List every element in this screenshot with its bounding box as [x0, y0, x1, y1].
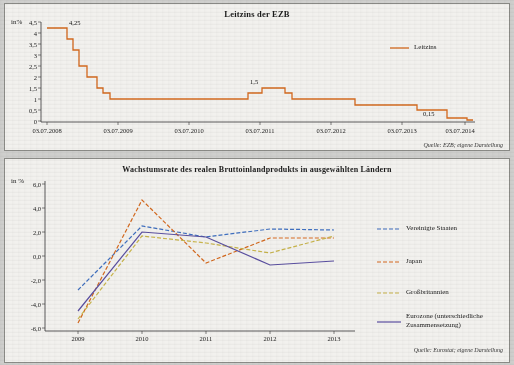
- svg-text:03.07.2013: 03.07.2013: [387, 127, 416, 134]
- svg-text:0: 0: [34, 118, 37, 125]
- bottom-chart-panel: Wachstumsrate des realen Bruttoinlandpro…: [4, 158, 510, 363]
- svg-text:1,5: 1,5: [29, 85, 37, 92]
- top-legend-label: Leitzins: [414, 43, 437, 51]
- svg-text:03.07.2014: 03.07.2014: [445, 127, 475, 134]
- svg-text:4: 4: [34, 30, 38, 37]
- top-y-ticks: 4,5 4 3,5 3 2,5 2 1,5 1 0,5 0: [29, 19, 41, 125]
- svg-text:03.07.2012: 03.07.2012: [316, 127, 345, 134]
- svg-text:03.07.2009: 03.07.2009: [103, 127, 132, 134]
- top-chart-source: Quelle: EZB; eigene Darstellung: [424, 142, 503, 148]
- svg-text:4,5: 4,5: [29, 19, 37, 26]
- legend-label-vereinigte-staaten: Vereinigte Staaten: [406, 224, 457, 232]
- svg-text:-4,0: -4,0: [31, 301, 41, 308]
- svg-text:1: 1: [34, 96, 37, 103]
- svg-text:2,5: 2,5: [29, 63, 37, 70]
- bottom-chart-source: Quelle: Eurostat; eigene Darstellung: [414, 347, 503, 353]
- svg-text:03.07.2011: 03.07.2011: [245, 127, 274, 134]
- svg-text:2: 2: [34, 74, 37, 81]
- top-annotation-15: 1,5: [250, 78, 258, 85]
- svg-text:2009: 2009: [72, 335, 85, 342]
- svg-text:2013: 2013: [328, 335, 341, 342]
- svg-text:3,5: 3,5: [29, 41, 37, 48]
- bottom-series-vereinigte-staaten: [78, 226, 334, 290]
- legend-label-japan: Japan: [406, 257, 422, 265]
- svg-text:0,0: 0,0: [33, 253, 41, 260]
- bottom-x-ticks: 2009 2010 2011 2012 2013: [72, 331, 341, 342]
- svg-text:0,5: 0,5: [29, 107, 37, 114]
- svg-text:03.07.2010: 03.07.2010: [174, 127, 203, 134]
- svg-text:2010: 2010: [136, 335, 149, 342]
- bottom-chart-svg: 6,0 4,0 2,0 0,0 -2,0 -4,0 -6,0 2009 2010…: [5, 159, 509, 362]
- bottom-series-japan: [78, 200, 334, 323]
- legend-label-grossbritannien: Großbritannien: [406, 288, 449, 296]
- top-chart-panel: Leitzins der EZB in% 4,5 4 3,5 3 2,5 2 1…: [4, 3, 510, 151]
- svg-text:2,0: 2,0: [33, 229, 41, 236]
- svg-text:3: 3: [34, 52, 37, 59]
- bottom-series-grossbritannien: [78, 236, 334, 319]
- legend-label-eurozone: Eurozone (unterschiedliche Zusammensetzu…: [406, 312, 506, 330]
- bottom-series-eurozone: [78, 232, 334, 311]
- svg-text:2012: 2012: [264, 335, 277, 342]
- svg-text:-6,0: -6,0: [31, 325, 41, 332]
- top-x-ticks: 03.07.2008 03.07.2009 03.07.2010 03.07.2…: [32, 122, 475, 134]
- top-chart-svg: 4,5 4 3,5 3 2,5 2 1,5 1 0,5 0: [5, 4, 509, 150]
- top-series-leitzins: [47, 28, 473, 120]
- svg-text:2011: 2011: [200, 335, 213, 342]
- bottom-y-ticks: 6,0 4,0 2,0 0,0 -2,0 -4,0 -6,0: [31, 181, 45, 332]
- svg-text:4,0: 4,0: [33, 205, 41, 212]
- svg-text:-2,0: -2,0: [31, 277, 41, 284]
- page-root: Leitzins der EZB in% 4,5 4 3,5 3 2,5 2 1…: [0, 0, 514, 365]
- svg-text:6,0: 6,0: [33, 181, 41, 188]
- top-annotation-015: 0,15: [423, 110, 434, 117]
- svg-text:03.07.2008: 03.07.2008: [32, 127, 61, 134]
- top-annotation-425: 4,25: [69, 19, 80, 26]
